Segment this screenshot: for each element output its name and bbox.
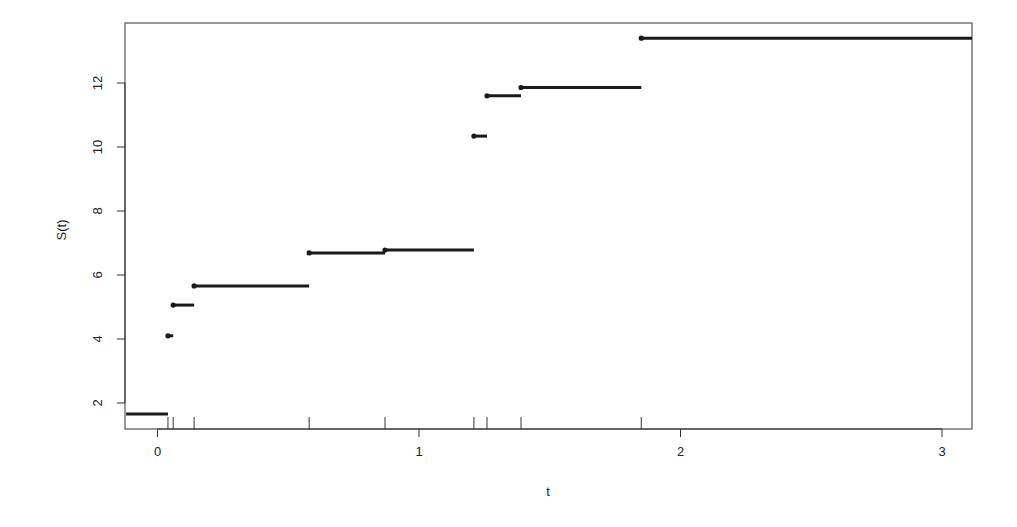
step-point (484, 93, 489, 98)
y-axis-title: S(t) (54, 220, 69, 241)
x-tick-label: 0 (154, 444, 161, 459)
y-tick-label: 2 (90, 399, 105, 406)
y-tick-label: 10 (90, 140, 105, 154)
step-point (471, 134, 476, 139)
plot-frame (125, 23, 972, 429)
y-tick-label: 12 (90, 76, 105, 90)
y-axis: 24681012 (90, 76, 125, 407)
step-series (126, 36, 972, 414)
step-point (165, 333, 170, 338)
y-tick-label: 4 (90, 335, 105, 342)
y-tick-label: 6 (90, 271, 105, 278)
step-function-chart: 24681012 0123 t S(t) (0, 0, 1017, 527)
y-tick-label: 8 (90, 207, 105, 214)
x-tick-label: 2 (677, 444, 684, 459)
step-point (171, 302, 176, 307)
step-point (518, 85, 523, 90)
rug-ticks (168, 417, 641, 429)
step-point (192, 283, 197, 288)
step-point (382, 247, 387, 252)
x-axis: 0123 (154, 429, 946, 459)
x-tick-label: 3 (938, 444, 945, 459)
x-tick-label: 1 (415, 444, 422, 459)
step-point (307, 250, 312, 255)
step-point (639, 36, 644, 41)
x-axis-title: t (546, 484, 550, 499)
